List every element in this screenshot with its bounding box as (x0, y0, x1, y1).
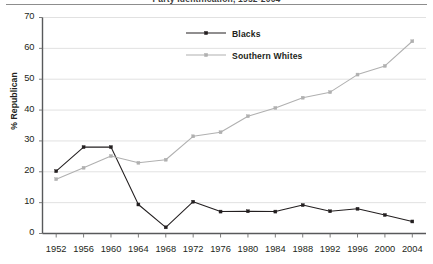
y-tick-label: 10 (13, 196, 35, 206)
y-tick-label: 20 (13, 165, 35, 175)
legend-label-southern-whites: Southern Whites (232, 51, 303, 61)
chart-container: Party Identification, 1952-2004 % Republ… (0, 0, 433, 264)
y-tick-label: 50 (13, 73, 35, 83)
plot-area (0, 0, 433, 264)
legend-markers (186, 31, 226, 56)
gridlines (43, 18, 427, 203)
y-tick-label: 30 (13, 134, 35, 144)
y-tick-label: 0 (13, 227, 35, 237)
data-series-layer (55, 40, 414, 229)
y-tick-label: 60 (13, 42, 35, 52)
y-tick-label: 70 (13, 11, 35, 21)
legend-label-blacks: Blacks (232, 29, 261, 39)
y-tick-label: 40 (13, 104, 35, 114)
x-tick-label: 2004 (395, 244, 429, 254)
